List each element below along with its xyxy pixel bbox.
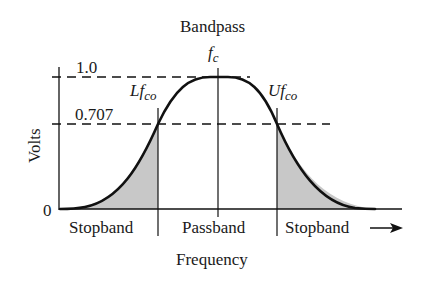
upper-sub: co [285, 88, 297, 103]
upper-prefix: U [268, 81, 280, 100]
region-label-passband: Passband [182, 219, 245, 236]
tick-label-0: 0 [43, 202, 52, 219]
tick-label-0.707: 0.707 [75, 106, 113, 123]
upper-cutoff-label: Ufco [268, 82, 297, 99]
bandpass-diagram: Bandpass fc 1.0 0.707 0 Lfco Ufco Volts … [0, 0, 422, 294]
lower-sub: co [144, 88, 156, 103]
region-label-left-stopband: Stopband [69, 219, 133, 236]
center-frequency-label: fc [208, 44, 219, 61]
region-label-right-stopband: Stopband [285, 219, 349, 236]
center-sub: c [213, 50, 219, 65]
tick-label-1.0: 1.0 [76, 59, 97, 76]
x-axis-label: Frequency [176, 251, 248, 268]
diagram-title: Bandpass [180, 18, 245, 35]
lower-cutoff-label: Lfco [130, 82, 156, 99]
left-stopband-shade [75, 124, 158, 209]
y-axis-label: Volts [26, 128, 43, 163]
